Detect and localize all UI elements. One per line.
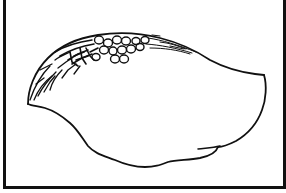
dense-hatching [55,40,98,66]
specimen-illustration [0,0,286,193]
outline-right [218,75,266,147]
vein-lines [30,52,80,100]
outline-bottom [28,104,218,167]
striations [146,35,196,54]
cell-cluster [92,36,149,63]
